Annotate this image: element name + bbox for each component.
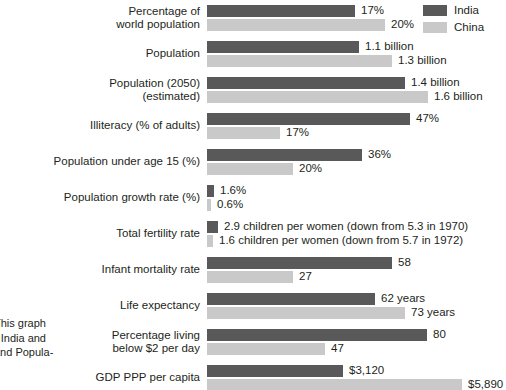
row-label-line: below $2 per day [0, 342, 200, 356]
chart-row: Percentage livingbelow $2 per day8047 [0, 329, 506, 355]
chart-row: Illiteracy (% of adults)47%17% [0, 113, 506, 139]
bar-china[interactable] [207, 163, 293, 175]
row-label: GDP PPP per capita [0, 371, 200, 385]
bar-value-india: 1.1 billion [365, 40, 414, 54]
chart-row: Percentage ofworld population17%20% [0, 5, 506, 31]
bar-india[interactable] [207, 293, 375, 305]
row-label: Illiteracy (% of adults) [0, 119, 200, 133]
bar-china[interactable] [207, 271, 293, 283]
chart-row: GDP PPP per capita$3,120$5,890 [0, 365, 506, 390]
bar-value-china: 73 years [411, 306, 455, 320]
row-label-line: (estimated) [0, 90, 200, 104]
bar-china[interactable] [207, 343, 325, 355]
row-label: Percentage livingbelow $2 per day [0, 329, 200, 356]
row-label-line: Total fertility rate [0, 227, 200, 241]
bar-china[interactable] [207, 199, 211, 211]
row-label: Population (2050)(estimated) [0, 77, 200, 104]
row-label-line: Percentage of [0, 5, 200, 19]
chart-row: Population1.1 billion1.3 billion [0, 41, 506, 67]
bar-china[interactable] [207, 19, 385, 31]
chart-row: Population (2050)(estimated)1.4 billion1… [0, 77, 506, 103]
row-label-line: world population [0, 18, 200, 32]
bar-china[interactable] [207, 55, 392, 67]
bar-value-china: 20% [299, 162, 322, 176]
row-label: Infant mortality rate [0, 263, 200, 277]
bar-india[interactable] [207, 365, 343, 377]
chart-row: Infant mortality rate5827 [0, 257, 506, 283]
bar-value-india: 47% [416, 112, 439, 126]
row-label-line: Population [0, 47, 200, 61]
bar-india[interactable] [207, 221, 218, 233]
bar-india[interactable] [207, 149, 362, 161]
bar-india[interactable] [207, 77, 405, 89]
row-label: Life expectancy [0, 299, 200, 313]
bar-value-india: 1.6% [220, 184, 246, 198]
bar-value-india: 2.9 children per women (down from 5.3 in… [224, 220, 468, 234]
row-label-line: Population growth rate (%) [0, 191, 200, 205]
chart-row: Population under age 15 (%)36%20% [0, 149, 506, 175]
bar-india[interactable] [207, 257, 392, 269]
bar-value-china: 47 [331, 342, 344, 356]
bar-india[interactable] [207, 5, 355, 17]
bar-value-china: 1.6 children per women (down from 5.7 in… [219, 234, 463, 248]
bar-china[interactable] [207, 127, 280, 139]
row-label: Population under age 15 (%) [0, 155, 200, 169]
bar-value-india: 80 [433, 328, 446, 342]
bar-india[interactable] [207, 185, 214, 197]
bar-china[interactable] [207, 91, 428, 103]
bar-value-china: 1.6 billion [434, 90, 483, 104]
bar-value-india: $3,120 [349, 364, 384, 378]
bar-value-china: $5,890 [468, 378, 503, 390]
chart-row: Total fertility rate2.9 children per wom… [0, 221, 506, 247]
bar-value-india: 62 years [381, 292, 425, 306]
bar-value-india: 36% [368, 148, 391, 162]
bar-china[interactable] [207, 235, 213, 247]
bar-china[interactable] [207, 307, 405, 319]
bar-value-china: 1.3 billion [398, 54, 447, 68]
chart-row: Population growth rate (%)1.6%0.6% [0, 185, 506, 211]
bar-value-china: 20% [391, 18, 414, 32]
bar-india[interactable] [207, 41, 359, 53]
bar-value-china: 0.6% [217, 198, 243, 212]
bar-china[interactable] [207, 379, 462, 390]
row-label-line: Population under age 15 (%) [0, 155, 200, 169]
row-label-line: GDP PPP per capita [0, 371, 200, 385]
bar-value-india: 17% [361, 4, 384, 18]
chart-page: India China This graph r India and and P… [0, 0, 506, 390]
row-label: Percentage ofworld population [0, 5, 200, 32]
bar-value-china: 17% [286, 126, 309, 140]
row-label-line: Infant mortality rate [0, 263, 200, 277]
chart-row: Life expectancy62 years73 years [0, 293, 506, 319]
row-label-line: Percentage living [0, 329, 200, 343]
row-label: Total fertility rate [0, 227, 200, 241]
bar-value-china: 27 [299, 270, 312, 284]
row-label-line: Life expectancy [0, 299, 200, 313]
row-label-line: Illiteracy (% of adults) [0, 119, 200, 133]
bar-value-india: 1.4 billion [411, 76, 460, 90]
row-label: Population growth rate (%) [0, 191, 200, 205]
bar-india[interactable] [207, 113, 410, 125]
bar-india[interactable] [207, 329, 427, 341]
bar-value-india: 58 [398, 256, 411, 270]
row-label: Population [0, 47, 200, 61]
row-label-line: Population (2050) [0, 77, 200, 91]
